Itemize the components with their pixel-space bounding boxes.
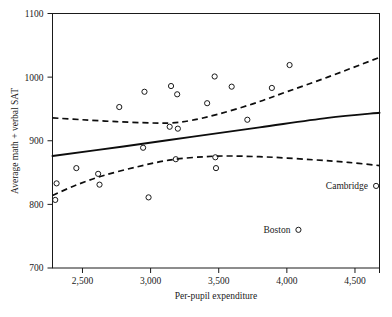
data-point-marker xyxy=(229,84,234,89)
y-axis-title: Average math + verbal SAT xyxy=(10,88,20,194)
data-point-marker xyxy=(269,85,274,90)
annotation-label-boston: Boston xyxy=(263,225,290,235)
data-point-marker xyxy=(373,183,378,188)
plot-canvas: 70080090010001100 2,5003,0003,5004,0004,… xyxy=(0,0,392,317)
x-tick-label: 3,500 xyxy=(208,276,230,286)
data-point-marker xyxy=(142,89,147,94)
y-tick-label: 700 xyxy=(29,263,44,273)
data-point-marker xyxy=(146,195,151,200)
data-point-marker xyxy=(117,104,122,109)
x-axis-title: Per-pupil expenditure xyxy=(175,291,257,301)
data-point-marker xyxy=(175,126,180,131)
annotation-label-cambridge: Cambridge xyxy=(326,181,368,191)
regression-fit xyxy=(53,113,380,156)
data-point-marker xyxy=(97,182,102,187)
data-point-marker xyxy=(205,101,210,106)
point-annotations: CambridgeBoston xyxy=(263,181,368,235)
data-point-marker xyxy=(96,171,101,176)
y-axis-ticks xyxy=(48,14,53,269)
data-point-marker xyxy=(175,92,180,97)
x-tick-label: 3,000 xyxy=(140,276,162,286)
data-point-marker xyxy=(287,62,292,67)
upper-confidence-band xyxy=(53,57,380,123)
y-tick-label: 900 xyxy=(29,136,44,146)
data-points xyxy=(53,62,379,232)
y-tick-label: 1000 xyxy=(25,73,44,83)
data-point-marker xyxy=(168,83,173,88)
data-point-marker xyxy=(53,197,58,202)
data-point-marker xyxy=(167,124,172,129)
data-point-marker xyxy=(74,166,79,171)
y-tick-label: 1100 xyxy=(25,9,44,19)
scatter-plot-figure: 70080090010001100 2,5003,0003,5004,0004,… xyxy=(0,0,392,317)
x-axis-tick-labels: 2,5003,0003,5004,0004,500 xyxy=(72,276,366,286)
data-point-marker xyxy=(296,227,301,232)
x-axis-ticks xyxy=(53,14,380,274)
y-axis-tick-labels: 70080090010001100 xyxy=(25,9,44,274)
data-point-marker xyxy=(141,145,146,150)
data-point-marker xyxy=(54,181,59,186)
data-point-marker xyxy=(213,166,218,171)
y-tick-label: 800 xyxy=(29,200,44,210)
x-tick-label: 4,000 xyxy=(276,276,298,286)
data-point-marker xyxy=(213,155,218,160)
data-point-marker xyxy=(212,74,217,79)
plot-frame xyxy=(53,14,380,269)
data-point-marker xyxy=(245,117,250,122)
x-tick-label: 4,500 xyxy=(344,276,366,286)
x-tick-label: 2,500 xyxy=(72,276,94,286)
